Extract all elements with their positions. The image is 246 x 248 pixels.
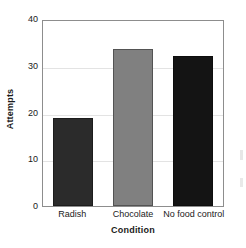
x-tick-label: No food control xyxy=(163,209,224,219)
y-axis-ticks: 010203040 xyxy=(14,0,38,248)
x-axis-ticks: RadishChocolateNo food control xyxy=(42,209,224,223)
y-tick-label: 30 xyxy=(16,62,38,71)
y-tick-label: 40 xyxy=(16,15,38,24)
y-tick-label: 20 xyxy=(16,109,38,118)
x-tick-label: Radish xyxy=(42,209,103,219)
y-tick-label: 0 xyxy=(16,202,38,211)
y-tick-label: 10 xyxy=(16,155,38,164)
bar-chart-figure: Attempts 010203040 RadishChocolateNo foo… xyxy=(0,0,246,248)
bar xyxy=(173,56,213,206)
bar xyxy=(113,49,153,206)
scan-artifact xyxy=(240,150,243,160)
x-tick-label: Chocolate xyxy=(103,209,164,219)
scan-artifact xyxy=(240,178,243,187)
bar-series xyxy=(43,21,223,206)
x-axis-title: Condition xyxy=(42,225,224,235)
plot-area xyxy=(42,20,224,207)
bar xyxy=(53,118,93,206)
